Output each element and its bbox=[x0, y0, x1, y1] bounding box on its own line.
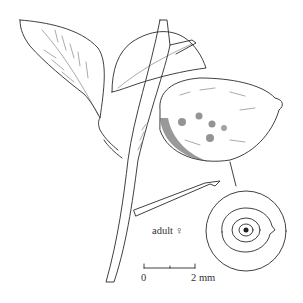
scale-bar bbox=[144, 264, 195, 268]
scale-start-label: 0 bbox=[141, 272, 146, 283]
right-leaf bbox=[112, 32, 206, 92]
fruit bbox=[160, 78, 283, 162]
specimen-label: adult ♀ bbox=[152, 225, 184, 236]
left-leaf bbox=[20, 20, 104, 118]
main-stem bbox=[99, 20, 221, 282]
magnified-scale-insect bbox=[206, 191, 286, 271]
botanical-illustration bbox=[0, 0, 303, 303]
scale-end-label: 2 mm bbox=[191, 272, 215, 283]
callout-line bbox=[230, 162, 236, 186]
